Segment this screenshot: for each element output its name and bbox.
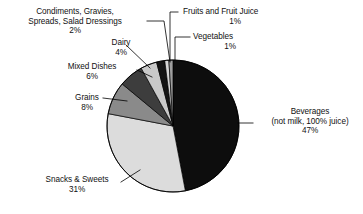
pie-label-fruits: Fruits and Fruit Juice 1% <box>183 7 301 26</box>
leader-line-fruits <box>170 12 178 61</box>
pie-label-condiments-percent: 2% <box>6 26 144 36</box>
pie-label-beverages: Beverages (not milk, 100% juice) 47% <box>258 107 362 136</box>
leader-line-condiments <box>147 21 170 62</box>
pie-label-beverages-name-line2: (not milk, 100% juice) <box>258 117 362 127</box>
pie-label-mixed-dishes-name: Mixed Dishes <box>50 62 134 72</box>
pie-label-grains-name: Grains <box>56 93 118 103</box>
pie-label-snacks-percent: 31% <box>24 185 130 195</box>
pie-label-dairy-percent: 4% <box>100 48 142 58</box>
pie-label-mixed-dishes: Mixed Dishes 6% <box>50 62 134 81</box>
pie-label-snacks: Snacks & Sweets 31% <box>24 175 130 194</box>
pie-label-condiments-name-line1: Condiments, Gravies, <box>6 7 144 17</box>
pie-label-beverages-name-line1: Beverages <box>258 107 362 117</box>
pie-label-grains: Grains 8% <box>56 93 118 112</box>
pie-label-vegetables-name: Vegetables <box>193 32 289 42</box>
pie-label-dairy: Dairy 4% <box>100 38 142 57</box>
pie-label-condiments: Condiments, Gravies, Spreads, Salad Dres… <box>6 7 144 36</box>
pie-label-fruits-name: Fruits and Fruit Juice <box>183 7 301 17</box>
pie-label-snacks-name: Snacks & Sweets <box>24 175 130 185</box>
pie-label-fruits-percent: 1% <box>183 17 287 27</box>
pie-label-dairy-name: Dairy <box>100 38 142 48</box>
pie-label-mixed-dishes-percent: 6% <box>50 72 134 82</box>
pie-label-vegetables: Vegetables 1% <box>193 32 289 51</box>
pie-slice-beverages[interactable] <box>173 60 239 191</box>
leader-line-vegetables <box>175 37 190 60</box>
pie-label-grains-percent: 8% <box>56 103 118 113</box>
pie-chart: Condiments, Gravies, Spreads, Salad Dres… <box>0 0 363 214</box>
pie-label-condiments-name-line2: Spreads, Salad Dressings <box>6 17 144 27</box>
pie-label-vegetables-percent: 1% <box>193 42 267 52</box>
pie-label-beverages-percent: 47% <box>258 126 362 136</box>
